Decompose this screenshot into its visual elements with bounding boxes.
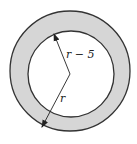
outer-radius-label: r — [60, 92, 66, 105]
inner-circle — [28, 31, 114, 117]
annulus-diagram: r − 5 r — [0, 0, 137, 144]
inner-radius-label: r − 5 — [66, 48, 94, 61]
